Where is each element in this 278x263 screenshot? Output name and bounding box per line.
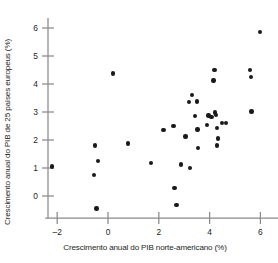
y-axis-tick-label: 5 — [24, 51, 38, 61]
scatter-point — [248, 68, 252, 72]
scatter-point — [111, 71, 115, 75]
scatter-point — [249, 109, 253, 113]
scatter-point — [214, 113, 218, 117]
scatter-point — [161, 128, 165, 132]
scatter-point — [195, 127, 199, 131]
scatter-point — [216, 136, 220, 140]
y-axis-tick-label: 4 — [24, 79, 38, 89]
axes-svg — [0, 0, 278, 263]
y-axis-tick-label: 0 — [24, 191, 38, 201]
scatter-point — [212, 68, 216, 72]
scatter-point — [126, 141, 130, 145]
y-axis-tick-label: 3 — [24, 107, 38, 117]
x-axis-tick-label: 6 — [250, 227, 270, 237]
x-axis-tick-label: 2 — [149, 227, 169, 237]
scatter-point — [249, 75, 253, 79]
scatter-point — [183, 134, 187, 138]
x-axis-tick-label: –2 — [47, 227, 67, 237]
scatter-point — [50, 164, 54, 168]
scatter-point — [195, 99, 199, 103]
y-axis-tick-label: 2 — [24, 135, 38, 145]
scatter-point — [94, 206, 98, 210]
y-axis-tick-label: 6 — [24, 23, 38, 33]
scatter-point — [172, 186, 176, 190]
scatter-chart-figure: Crescimento anual do PIB de 25 países eu… — [0, 0, 278, 263]
x-axis-tick-label: 0 — [98, 227, 118, 237]
scatter-point — [171, 124, 175, 128]
plot-area: 0123456–20246 — [0, 0, 278, 263]
scatter-point — [93, 143, 97, 147]
x-axis-tick-label: 4 — [200, 227, 220, 237]
scatter-point — [211, 78, 215, 82]
y-axis-tick-label: 1 — [24, 163, 38, 173]
